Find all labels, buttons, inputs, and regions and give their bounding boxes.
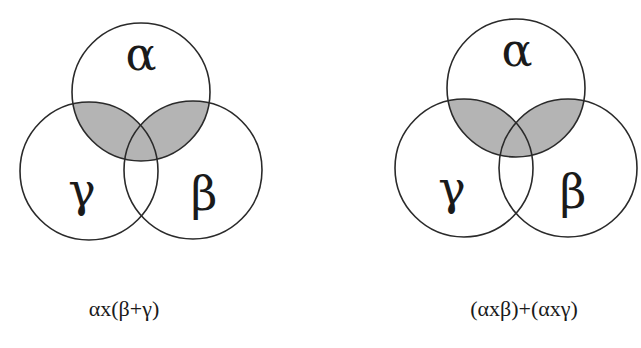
left-shaded-region xyxy=(20,101,262,240)
left-formula: αx(β+γ) xyxy=(89,296,160,321)
right-gamma-label: γ xyxy=(438,161,466,215)
left-alpha-label: α xyxy=(125,27,156,81)
left-venn-diagram: α γ β αx(β+γ) xyxy=(20,23,262,321)
right-alpha-label: α xyxy=(501,23,532,77)
right-shaded-region xyxy=(395,99,637,237)
left-beta-label: β xyxy=(191,167,218,221)
right-formula: (αxβ)+(αxγ) xyxy=(470,296,578,321)
right-venn-diagram: α γ β (αxβ)+(αxγ) xyxy=(395,19,637,321)
left-gamma-label: γ xyxy=(68,163,96,217)
right-beta-label: β xyxy=(560,165,587,219)
venn-diagram-figure: α γ β αx(β+γ) α γ β (αxβ)+(αxγ) xyxy=(0,0,641,348)
